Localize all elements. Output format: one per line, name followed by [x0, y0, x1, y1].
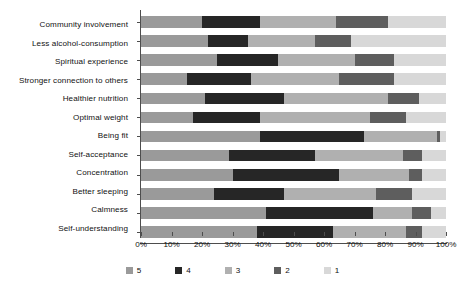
plot-area: [141, 16, 446, 238]
y-axis-label: Less alcohol-consumption: [0, 35, 132, 54]
y-axis-label: Better sleeping: [0, 183, 132, 202]
x-axis-tick: [263, 232, 264, 236]
legend-label: 2: [285, 266, 290, 275]
bar-segment-2: [336, 16, 388, 28]
bar-segment-4: [233, 169, 340, 181]
bar-segment-2: [388, 93, 419, 105]
bar-segment-2: [409, 169, 421, 181]
bar-segment-5: [141, 131, 260, 143]
y-axis-label: Self-understanding: [0, 220, 132, 239]
bar-segment-2: [412, 207, 430, 219]
bar-segment-1: [394, 73, 446, 85]
y-axis-label: Being fit: [0, 127, 132, 146]
bar-segment-2: [376, 188, 413, 200]
bar-segment-3: [364, 131, 437, 143]
x-axis-tick-marks: [141, 232, 446, 238]
bar-segment-3: [315, 150, 403, 162]
bar-segment-5: [141, 73, 187, 85]
x-axis-tick-label: 100%: [436, 240, 457, 249]
bar-segment-2: [355, 54, 395, 66]
legend-item[interactable]: 1: [324, 266, 340, 275]
stacked-bar-chart: Community involvementLess alcohol-consum…: [0, 0, 465, 289]
bar-segment-5: [141, 16, 202, 28]
bar-segment-3: [251, 73, 339, 85]
y-axis-tick: [137, 79, 141, 80]
bar-segment-3: [284, 93, 388, 105]
bar-row: [141, 150, 446, 162]
y-axis-label: Concentration: [0, 164, 132, 183]
y-axis-tick: [137, 98, 141, 99]
bar-segment-5: [141, 188, 214, 200]
y-axis-tick: [137, 22, 141, 23]
bar-segment-2: [339, 73, 394, 85]
y-axis-label: Self-acceptance: [0, 146, 132, 165]
legend-swatch-icon: [274, 267, 281, 274]
bar-segment-1: [388, 16, 446, 28]
legend-item[interactable]: 2: [274, 266, 290, 275]
bar-segment-5: [141, 54, 217, 66]
y-axis-tick: [137, 136, 141, 137]
x-axis-tick: [416, 232, 417, 236]
bar-segment-1: [419, 93, 446, 105]
x-axis-tick: [172, 232, 173, 236]
legend-item[interactable]: 3: [225, 266, 241, 275]
x-axis-tick: [233, 232, 234, 236]
bar-segment-5: [141, 35, 208, 47]
x-axis-tick-label: 80%: [377, 240, 393, 249]
bar-segment-5: [141, 169, 233, 181]
x-axis-tick: [324, 232, 325, 236]
bar-segment-3: [278, 54, 354, 66]
x-axis-tick-label: 30%: [224, 240, 240, 249]
bar-segment-4: [205, 93, 284, 105]
bar-segment-3: [260, 16, 336, 28]
bar-segment-1: [422, 150, 446, 162]
legend-swatch-icon: [175, 267, 182, 274]
bar-row: [141, 54, 446, 66]
y-axis-tick: [137, 175, 141, 176]
legend-swatch-icon: [324, 267, 331, 274]
bar-series-container: [141, 16, 446, 238]
x-axis-tick-label: 20%: [194, 240, 210, 249]
bar-segment-1: [440, 131, 446, 143]
x-axis-tick-label: 40%: [255, 240, 271, 249]
legend-label: 3: [236, 266, 241, 275]
y-axis-tick: [137, 213, 141, 214]
bar-segment-5: [141, 207, 266, 219]
x-axis-tick-label: 60%: [316, 240, 332, 249]
bar-row: [141, 35, 446, 47]
bar-segment-4: [187, 73, 251, 85]
x-axis-tick-label: 0%: [135, 240, 147, 249]
bar-row: [141, 131, 446, 143]
bar-row: [141, 112, 446, 124]
bar-segment-3: [260, 112, 370, 124]
legend-label: 5: [137, 266, 142, 275]
bar-row: [141, 188, 446, 200]
legend-swatch-icon: [126, 267, 133, 274]
legend-item[interactable]: 4: [175, 266, 191, 275]
bar-segment-5: [141, 150, 229, 162]
legend-item[interactable]: 5: [126, 266, 142, 275]
x-axis-tick-label: 70%: [346, 240, 362, 249]
x-axis-tick: [294, 232, 295, 236]
bar-segment-1: [412, 188, 446, 200]
bar-row: [141, 16, 446, 28]
y-axis-label: Calmness: [0, 201, 132, 220]
bar-segment-3: [284, 188, 376, 200]
bar-segment-4: [193, 112, 260, 124]
bar-segment-2: [403, 150, 421, 162]
legend-label: 1: [335, 266, 340, 275]
bar-segment-1: [431, 207, 446, 219]
legend-swatch-icon: [225, 267, 232, 274]
bar-row: [141, 73, 446, 85]
bar-segment-3: [248, 35, 315, 47]
x-axis-tick-label: 10%: [163, 240, 179, 249]
x-axis-tick: [446, 232, 447, 236]
bar-segment-4: [214, 188, 284, 200]
bar-segment-4: [266, 207, 373, 219]
y-axis-tick: [137, 60, 141, 61]
bar-segment-4: [208, 35, 248, 47]
y-axis-tick: [137, 155, 141, 156]
bar-segment-4: [202, 16, 260, 28]
x-axis-tick-labels: 0%10%20%30%40%50%60%70%80%90%100%: [0, 240, 465, 252]
legend-label: 4: [186, 266, 191, 275]
